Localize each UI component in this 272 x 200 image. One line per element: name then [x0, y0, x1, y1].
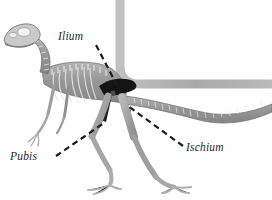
antorbital-fenestra: [9, 32, 17, 37]
dinosaur-pelvis-diagram: Ilium Pubis Ischium: [0, 0, 272, 200]
background-frame-band: [120, 0, 272, 84]
figure-root: Ilium Pubis Ischium: [0, 0, 272, 200]
skull: [4, 24, 40, 47]
pes-near: [162, 187, 191, 193]
hindlimb-far: [88, 96, 121, 194]
orbit-fenestra: [18, 28, 31, 37]
label-ischium: Ischium: [185, 141, 224, 153]
label-ilium: Ilium: [57, 30, 83, 42]
pes-far: [88, 185, 121, 194]
label-pubis: Pubis: [9, 150, 38, 162]
manus-claws: [28, 133, 39, 146]
dinosaur-skeleton: [4, 24, 272, 194]
